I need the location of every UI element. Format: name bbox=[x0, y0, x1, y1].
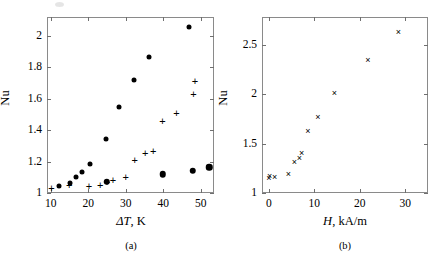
y-tick-label: 2.5 bbox=[220, 39, 257, 51]
y-tick bbox=[47, 67, 51, 68]
data-point-circle bbox=[160, 171, 167, 178]
data-point-circle bbox=[186, 24, 191, 29]
subcaption-b: (b) bbox=[339, 240, 351, 251]
data-point-plus: + bbox=[159, 116, 165, 127]
x-tick-label: 20 bbox=[83, 198, 95, 210]
data-point-cross: × bbox=[396, 28, 401, 37]
y-axis-title-a: Nu bbox=[0, 90, 13, 105]
data-point-circle bbox=[104, 136, 109, 141]
y-tick bbox=[47, 162, 51, 163]
x-tick-label: 30 bbox=[400, 198, 412, 210]
x-tick-label: 40 bbox=[158, 198, 170, 210]
x-tick bbox=[163, 189, 164, 193]
subcaption-a: (a) bbox=[125, 240, 137, 251]
x-tick-top bbox=[88, 17, 89, 21]
y-tick-right bbox=[210, 130, 214, 131]
data-point-plus: + bbox=[173, 107, 179, 118]
x-tick-top bbox=[269, 17, 270, 21]
data-point-cross: × bbox=[365, 55, 370, 64]
y-axis-title-b: Nu bbox=[216, 90, 231, 105]
plot-area-b bbox=[263, 18, 427, 192]
x-tick bbox=[314, 189, 315, 193]
x-tick-top bbox=[163, 17, 164, 21]
x-axis-units-a: , K bbox=[131, 214, 146, 228]
plot-frame-a bbox=[47, 17, 214, 193]
y-tick bbox=[262, 144, 266, 145]
y-tick-right bbox=[210, 67, 214, 68]
data-point-circle bbox=[190, 167, 197, 174]
y-tick-label: 1.2 bbox=[5, 156, 42, 168]
data-point-cross: × bbox=[272, 172, 277, 181]
data-point-plus: + bbox=[150, 145, 156, 156]
x-tick-label: 30 bbox=[120, 198, 132, 210]
panel-b: 010203011.522.5 H, kA/m Nu (b) ×××××××××… bbox=[223, 0, 446, 262]
y-tick-label: 1 bbox=[5, 187, 42, 199]
data-point-plus: + bbox=[132, 155, 138, 166]
plot-area-a bbox=[48, 18, 213, 192]
plot-frame-b bbox=[262, 17, 428, 193]
data-point-plus: + bbox=[192, 76, 198, 87]
x-axis-symbol-b: H bbox=[323, 214, 332, 228]
x-tick-top bbox=[51, 17, 52, 21]
data-point-cross: × bbox=[305, 127, 310, 136]
y-tick-right bbox=[210, 193, 214, 194]
y-tick bbox=[262, 193, 266, 194]
figure-container: 102030405011.21.41.61.82 ΔT, K Nu (a) ++… bbox=[0, 0, 446, 262]
y-tick-label: 2 bbox=[5, 30, 42, 42]
x-tick-top bbox=[201, 17, 202, 21]
x-tick bbox=[201, 189, 202, 193]
x-tick bbox=[360, 189, 361, 193]
data-point-cross: × bbox=[315, 113, 320, 122]
x-axis-title-b: H, kA/m bbox=[323, 214, 367, 229]
data-point-cross: × bbox=[286, 170, 291, 179]
data-point-circle bbox=[79, 170, 84, 175]
data-point-plus: + bbox=[86, 180, 92, 191]
y-tick-right bbox=[424, 45, 428, 46]
y-tick bbox=[262, 94, 266, 95]
data-point-plus: + bbox=[123, 171, 129, 182]
x-tick-label: 50 bbox=[195, 198, 207, 210]
y-tick-right bbox=[210, 162, 214, 163]
x-axis-units-b: , kA/m bbox=[332, 214, 367, 228]
x-tick-label: 10 bbox=[45, 198, 57, 210]
y-tick bbox=[47, 130, 51, 131]
x-axis-symbol-a: ΔT bbox=[116, 214, 130, 228]
data-point-circle bbox=[73, 174, 78, 179]
data-point-circle bbox=[147, 54, 152, 59]
x-tick-top bbox=[126, 17, 127, 21]
y-tick-right bbox=[424, 193, 428, 194]
x-tick-label: 10 bbox=[309, 198, 321, 210]
y-tick bbox=[47, 99, 51, 100]
data-point-circle bbox=[57, 183, 62, 188]
x-tick-top bbox=[314, 17, 315, 21]
x-tick-label: 20 bbox=[354, 198, 366, 210]
panel-a: 102030405011.21.41.61.82 ΔT, K Nu (a) ++… bbox=[0, 0, 223, 262]
y-tick-label: 1.5 bbox=[220, 138, 257, 150]
data-point-plus: + bbox=[190, 88, 196, 99]
data-point-plus: + bbox=[97, 179, 103, 190]
x-tick bbox=[269, 189, 270, 193]
x-tick-top bbox=[360, 17, 361, 21]
data-point-plus: + bbox=[66, 179, 72, 190]
data-point-cross: × bbox=[299, 148, 304, 157]
y-tick-right bbox=[210, 99, 214, 100]
y-tick bbox=[47, 36, 51, 37]
y-tick-right bbox=[424, 144, 428, 145]
data-point-circle bbox=[117, 104, 122, 109]
x-tick-label: 0 bbox=[266, 198, 272, 210]
x-tick bbox=[126, 189, 127, 193]
x-tick bbox=[405, 189, 406, 193]
y-tick-right bbox=[424, 94, 428, 95]
x-axis-title-a: ΔT, K bbox=[116, 214, 146, 229]
data-point-circle bbox=[87, 162, 92, 167]
y-tick-right bbox=[210, 36, 214, 37]
scan-artifact bbox=[55, 2, 64, 7]
data-point-plus: + bbox=[142, 147, 148, 158]
data-point-plus: + bbox=[110, 175, 116, 186]
y-tick bbox=[262, 45, 266, 46]
y-tick-label: 1.4 bbox=[5, 124, 42, 136]
data-point-circle bbox=[132, 78, 137, 83]
x-tick-top bbox=[405, 17, 406, 21]
y-tick-label: 1.8 bbox=[5, 62, 42, 74]
data-point-circle bbox=[206, 164, 213, 171]
